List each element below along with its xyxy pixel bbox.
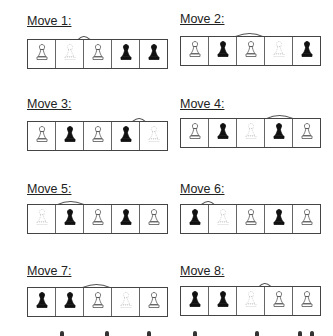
faded-pawn-icon bbox=[244, 122, 258, 144]
cut-off-text-fragment bbox=[147, 331, 151, 336]
move-label: Move 5: bbox=[27, 182, 71, 196]
board-cell bbox=[181, 287, 209, 315]
black-pawn-icon bbox=[119, 125, 133, 147]
black-pawn-icon bbox=[63, 208, 77, 230]
board-cell bbox=[56, 288, 84, 316]
cut-off-text-fragment bbox=[105, 331, 109, 336]
faded-pawn-icon bbox=[244, 290, 258, 312]
board bbox=[180, 118, 321, 148]
board-cell bbox=[28, 122, 56, 150]
white-pawn-icon bbox=[244, 40, 258, 62]
board-cell bbox=[181, 37, 209, 65]
faded-pawn-icon bbox=[216, 208, 230, 230]
white-pawn-icon bbox=[188, 40, 202, 62]
cut-off-text-fragment bbox=[298, 331, 302, 336]
white-pawn-icon bbox=[91, 291, 105, 313]
board-cell bbox=[237, 37, 265, 65]
move-label: Move 4: bbox=[180, 97, 224, 111]
white-pawn-icon bbox=[300, 208, 314, 230]
board bbox=[27, 204, 168, 234]
white-pawn-icon bbox=[91, 125, 105, 147]
black-pawn-icon bbox=[147, 43, 161, 65]
board-cell bbox=[112, 40, 140, 68]
board-cell bbox=[112, 288, 140, 316]
board-cell bbox=[293, 119, 320, 147]
board bbox=[27, 121, 168, 151]
white-pawn-icon bbox=[244, 208, 258, 230]
black-pawn-icon bbox=[188, 208, 202, 230]
board-cell bbox=[140, 288, 167, 316]
board-cell bbox=[28, 205, 56, 233]
board-cell bbox=[209, 205, 237, 233]
faded-pawn-icon bbox=[147, 125, 161, 147]
board-cell bbox=[237, 119, 265, 147]
move-label: Move 1: bbox=[27, 14, 71, 28]
board-cell bbox=[112, 205, 140, 233]
board-cell bbox=[56, 205, 84, 233]
board-cell bbox=[181, 119, 209, 147]
cut-off-text-fragment bbox=[255, 331, 259, 336]
white-pawn-icon bbox=[35, 125, 49, 147]
board-cell bbox=[56, 40, 84, 68]
black-pawn-icon bbox=[119, 43, 133, 65]
black-pawn-icon bbox=[216, 122, 230, 144]
board bbox=[27, 287, 168, 317]
white-pawn-icon bbox=[35, 43, 49, 65]
board-cell bbox=[140, 205, 167, 233]
white-pawn-icon bbox=[147, 291, 161, 313]
board-cell bbox=[112, 122, 140, 150]
white-pawn-icon bbox=[147, 208, 161, 230]
black-pawn-icon bbox=[300, 40, 314, 62]
faded-pawn-icon bbox=[35, 208, 49, 230]
white-pawn-icon bbox=[272, 290, 286, 312]
board bbox=[27, 39, 168, 69]
board-cell bbox=[84, 205, 112, 233]
white-pawn-icon bbox=[188, 122, 202, 144]
black-pawn-icon bbox=[216, 290, 230, 312]
cut-off-text-fragment bbox=[310, 331, 314, 336]
faded-pawn-icon bbox=[119, 291, 133, 313]
white-pawn-icon bbox=[91, 43, 105, 65]
board-cell bbox=[140, 40, 167, 68]
move-label: Move 2: bbox=[180, 12, 224, 26]
faded-pawn-icon bbox=[272, 40, 286, 62]
black-pawn-icon bbox=[188, 290, 202, 312]
black-pawn-icon bbox=[272, 208, 286, 230]
move-label: Move 3: bbox=[27, 97, 71, 111]
board-cell bbox=[293, 37, 320, 65]
white-pawn-icon bbox=[300, 290, 314, 312]
faded-pawn-icon bbox=[63, 43, 77, 65]
white-pawn-icon bbox=[300, 122, 314, 144]
black-pawn-icon bbox=[216, 40, 230, 62]
board bbox=[180, 286, 321, 316]
white-pawn-icon bbox=[91, 208, 105, 230]
cut-off-text-fragment bbox=[193, 331, 197, 336]
board-cell bbox=[140, 122, 167, 150]
board-cell bbox=[56, 122, 84, 150]
board-cell bbox=[209, 37, 237, 65]
board-cell bbox=[293, 287, 320, 315]
cut-off-text-fragment bbox=[60, 331, 64, 336]
board-cell bbox=[237, 287, 265, 315]
board-cell bbox=[293, 205, 320, 233]
move-label: Move 7: bbox=[27, 264, 71, 278]
board-cell bbox=[28, 288, 56, 316]
board-cell bbox=[181, 205, 209, 233]
black-pawn-icon bbox=[119, 208, 133, 230]
board bbox=[180, 204, 321, 234]
board-cell bbox=[237, 205, 265, 233]
board-cell bbox=[265, 287, 293, 315]
board-cell bbox=[84, 288, 112, 316]
move-label: Move 8: bbox=[180, 264, 224, 278]
black-pawn-icon bbox=[63, 291, 77, 313]
black-pawn-icon bbox=[63, 125, 77, 147]
black-pawn-icon bbox=[272, 122, 286, 144]
board-cell bbox=[209, 119, 237, 147]
black-pawn-icon bbox=[35, 291, 49, 313]
board-cell bbox=[28, 40, 56, 68]
board-cell bbox=[265, 119, 293, 147]
move-label: Move 6: bbox=[180, 182, 224, 196]
board-cell bbox=[84, 40, 112, 68]
board-cell bbox=[265, 205, 293, 233]
board-cell bbox=[265, 37, 293, 65]
